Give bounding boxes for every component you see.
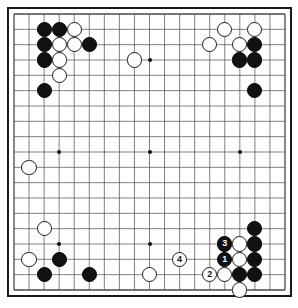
stone-white[interactable] bbox=[67, 22, 82, 37]
stone-black[interactable] bbox=[37, 83, 52, 98]
stone-white[interactable] bbox=[52, 68, 67, 83]
stone-white[interactable] bbox=[232, 282, 247, 297]
stone-black[interactable] bbox=[37, 52, 52, 67]
stone-black[interactable] bbox=[52, 252, 67, 267]
stone-white[interactable] bbox=[37, 221, 52, 236]
move-stone-2[interactable]: 2 bbox=[202, 267, 217, 282]
stone-white[interactable] bbox=[21, 252, 36, 267]
stone-white[interactable] bbox=[52, 52, 67, 67]
hoshi-point bbox=[148, 150, 152, 154]
stone-white[interactable] bbox=[67, 37, 82, 52]
stone-black[interactable] bbox=[232, 52, 247, 67]
move-stone-3[interactable]: 3 bbox=[217, 236, 232, 251]
hoshi-point bbox=[238, 150, 242, 154]
stone-white[interactable] bbox=[232, 236, 247, 251]
move-stone-1[interactable]: 1 bbox=[217, 252, 232, 267]
stone-black[interactable] bbox=[82, 37, 97, 52]
stone-white[interactable] bbox=[52, 37, 67, 52]
hoshi-point bbox=[148, 58, 152, 62]
stone-black[interactable] bbox=[37, 37, 52, 52]
stone-black[interactable] bbox=[37, 267, 52, 282]
hoshi-point bbox=[148, 242, 152, 246]
stone-black[interactable] bbox=[37, 22, 52, 37]
stone-black[interactable] bbox=[247, 52, 262, 67]
stone-white[interactable] bbox=[21, 160, 36, 175]
go-board[interactable]: 3124 bbox=[7, 7, 292, 297]
stone-black[interactable] bbox=[247, 236, 262, 251]
move-number: 2 bbox=[203, 268, 216, 281]
stone-white[interactable] bbox=[127, 52, 142, 67]
move-number: 1 bbox=[218, 253, 231, 266]
move-stone-4[interactable]: 4 bbox=[172, 252, 187, 267]
stone-black[interactable] bbox=[82, 267, 97, 282]
move-number: 3 bbox=[218, 237, 231, 250]
move-number: 4 bbox=[173, 253, 186, 266]
go-diagram: 3124 bbox=[0, 0, 298, 308]
stone-black[interactable] bbox=[52, 22, 67, 37]
